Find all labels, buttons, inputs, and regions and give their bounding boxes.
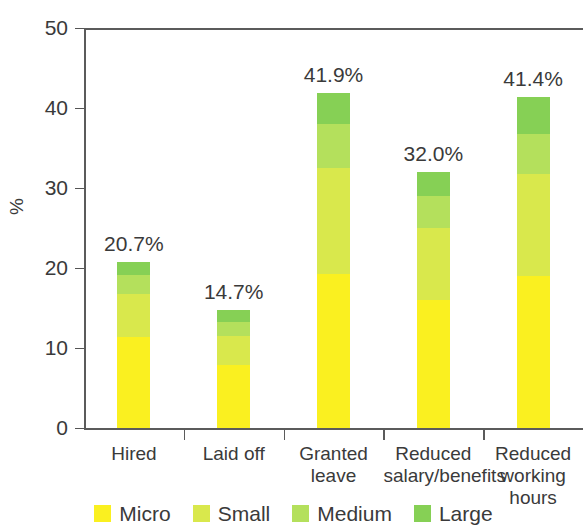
x-axis-label-line: Reduced [483,443,583,465]
x-tick-mark [284,429,286,440]
bar-segment-medium [417,196,450,228]
bar-segment-small [517,174,550,276]
legend-swatch-icon [292,505,309,522]
legend-swatch-icon [94,505,111,522]
y-tick-label: 50 [0,17,68,38]
y-tick-mark [75,108,84,110]
legend-swatch-icon [414,505,431,522]
bar-segment-micro [117,337,150,428]
bar-segment-medium [517,134,550,174]
bar-reduced-salary-benefits[interactable]: 32.0% [417,172,450,428]
bar-value-label: 14.7% [204,280,264,304]
bar-reduced-working-hours[interactable]: 41.4% [517,97,550,428]
bar-segment-micro [317,274,350,428]
bar-value-label: 41.9% [304,63,364,87]
bar-segment-large [217,310,250,321]
legend-item-large[interactable]: Large [414,503,493,524]
bar-value-label: 20.7% [104,232,164,256]
x-axis-label-line: salary/benefits [383,465,483,487]
x-axis-label: Laid off [184,443,284,465]
stacked-bar-chart: % 50403020100 20.7%14.7%41.9%32.0%41.4% … [0,0,587,532]
bar-hired[interactable]: 20.7% [117,262,150,428]
bar-segment-small [317,168,350,274]
legend-swatch-icon [193,505,210,522]
bar-segment-large [117,262,150,275]
bar-segment-micro [517,276,550,428]
legend-label: Micro [119,503,170,524]
plot-area: 20.7%14.7%41.9%32.0%41.4% [84,28,583,428]
bar-segment-large [317,93,350,124]
y-tick-label: 20 [0,257,68,278]
bar-value-label: 41.4% [503,67,563,91]
bar-value-label: 32.0% [404,142,464,166]
y-tick-label: 40 [0,97,68,118]
x-axis-label-line: Reduced [383,443,483,465]
y-tick-mark [75,348,84,350]
bar-laid-off[interactable]: 14.7% [217,310,250,428]
bar-segment-micro [217,365,250,428]
legend-label: Medium [317,503,392,524]
y-axis-title: % [6,198,28,215]
chart-legend: MicroSmallMediumLarge [0,503,587,524]
bar-segment-small [417,228,450,300]
x-axis-label: Grantedleave [284,443,384,487]
x-axis-label-line: Laid off [184,443,284,465]
bar-segment-micro [417,300,450,428]
bar-segment-large [417,172,450,196]
legend-label: Small [218,503,271,524]
y-tick-mark [75,28,84,30]
bar-segment-large [517,97,550,135]
x-axis-label-line: leave [284,465,384,487]
y-tick-mark [75,428,84,430]
x-axis-label: Reducedsalary/benefits [383,443,483,487]
x-axis-label: Reducedworkinghours [483,443,583,509]
y-tick-label: 30 [0,177,68,198]
x-tick-mark [483,429,485,440]
bar-segment-medium [217,322,250,336]
x-tick-mark [184,429,186,440]
x-axis-label-line: working [483,465,583,487]
y-tick-label: 0 [0,417,68,438]
bar-segment-medium [117,275,150,294]
legend-item-micro[interactable]: Micro [94,503,170,524]
y-tick-mark [75,188,84,190]
x-axis-label: Hired [84,443,184,465]
x-axis-line [84,428,583,430]
x-axis-label-line: Granted [284,443,384,465]
legend-item-medium[interactable]: Medium [292,503,392,524]
bar-granted-leave[interactable]: 41.9% [317,93,350,428]
x-tick-mark [383,429,385,440]
bar-segment-small [117,294,150,336]
x-axis-label-line: Hired [84,443,184,465]
y-tick-label: 10 [0,337,68,358]
legend-item-small[interactable]: Small [193,503,271,524]
legend-label: Large [439,503,493,524]
bar-segment-small [217,336,250,365]
y-tick-mark [75,268,84,270]
bar-segment-medium [317,124,350,168]
